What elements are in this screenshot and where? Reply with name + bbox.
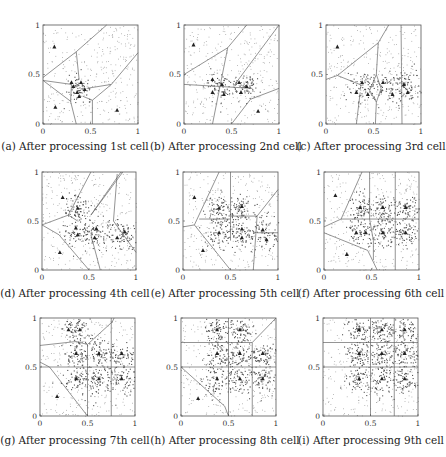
panel-b: 00.5100.51(b) After processing 2nd cell [150,0,298,150]
scatter-points [324,172,420,271]
y-tick-label: 1 [316,168,321,177]
scatter-points [323,318,419,416]
generator-marker [238,377,242,381]
scatter-points [42,172,137,270]
voronoi-edge [401,25,402,124]
scatter-points [41,319,135,417]
voronoi-edge [194,172,219,225]
generator-marker [360,80,364,84]
y-tick-label: 1 [175,168,180,177]
x-tick-label: 1 [136,127,141,136]
x-tick-label: 0 [41,127,46,136]
voronoi-edge [68,215,77,221]
x-tick-label: 0.5 [365,419,377,428]
scatter-points [43,26,138,125]
voronoi-edge [324,233,368,251]
y-tick-label: 1 [315,314,320,323]
y-tick-label: 1 [318,21,323,30]
voronoi-edge [76,25,106,52]
y-tick-label: 0.5 [311,70,323,79]
voronoi-edge [91,235,100,270]
plot-d: 00.5100.51 [0,148,150,298]
generator-marker [79,80,83,84]
voronoi-edge [228,25,247,48]
generator-marker [240,235,244,239]
x-tick-label: 0.5 [223,419,235,428]
x-tick-label: 0 [40,273,45,282]
y-tick-label: 0.5 [308,363,320,372]
y-tick-label: 0 [175,266,180,275]
voronoi-edge [194,225,230,270]
x-tick-label: 0 [321,419,326,428]
voronoi-edge [43,52,76,78]
voronoi-edge [183,225,194,227]
voronoi-edge [181,367,225,406]
generator-marker [201,248,205,252]
generator-marker [391,92,395,96]
y-tick-label: 1 [35,21,40,30]
voronoi-edge [184,48,228,75]
x-tick-label: 0 [38,419,43,428]
y-tick-label: 0 [173,412,178,421]
generator-marker [74,351,78,355]
generator-marker [93,235,97,239]
voronoi-edge [50,367,88,416]
generator-marker [354,231,358,235]
y-tick-label: 0.5 [169,70,181,79]
plot-frame [42,172,136,270]
plot-f: 00.5100.51 [296,148,446,298]
y-tick-label: 0.5 [166,363,178,372]
generator-marker [115,108,119,112]
generator-marker [196,396,200,400]
y-tick-label: 0.5 [28,70,40,79]
x-tick-label: 0.5 [82,419,94,428]
panel-a: 00.5100.51(a) After processing 1st cell [0,0,148,150]
y-tick-label: 1 [32,314,37,323]
plot-b: 00.5100.51 [150,0,300,150]
x-tick-label: 0.5 [225,273,237,282]
voronoi-edge [324,219,341,227]
generator-marker [70,80,74,84]
voronoi-edge [59,235,89,270]
y-tick-label: 0 [316,266,321,275]
generator-marker [217,231,221,235]
y-tick-label: 1 [176,21,181,30]
voronoi-edge [91,172,121,215]
generator-marker [406,90,410,94]
scatter-points [184,26,280,125]
generator-marker [97,351,101,355]
voronoi-edge [356,92,360,124]
x-tick-label: 1 [134,273,139,282]
generator-marker [211,77,215,81]
voronoi-edge [376,43,378,75]
generator-marker [52,45,56,49]
y-tick-label: 0 [176,120,181,129]
generator-marker [58,250,62,254]
caption-h: (h) After processing 8th cell [150,434,300,446]
generator-marker [261,228,265,232]
generator-marker [211,90,215,94]
panel-d: 00.5100.51(d) After processing 4th cell [0,148,148,298]
generator-marker [335,45,339,49]
x-tick-label: 0.5 [366,273,378,282]
x-tick-label: 1 [277,127,282,136]
generator-marker [55,394,59,398]
voronoi-edge [368,250,378,270]
voronoi-edge [232,99,251,124]
x-tick-label: 0.5 [83,273,95,282]
x-tick-label: 1 [276,273,281,282]
voronoi-edge [370,90,377,102]
panel-h: 00.5100.51(h) After processing 8th cell [150,296,298,446]
x-tick-label: 0.5 [85,127,97,136]
x-tick-label: 0.5 [368,127,380,136]
voronoi-edge [337,75,362,85]
x-tick-label: 1 [416,419,421,428]
voronoi-edge [225,406,229,416]
voronoi-edge [257,190,278,216]
plot-a: 00.5100.51 [0,0,150,150]
x-tick-label: 0.5 [226,127,238,136]
voronoi-edge [42,215,68,225]
y-tick-label: 0 [32,412,37,421]
voronoi-edge [376,75,381,89]
x-tick-label: 1 [274,419,279,428]
